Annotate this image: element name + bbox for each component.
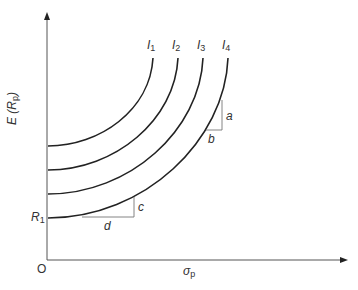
origin-label: O	[37, 263, 46, 275]
x-axis-label: σp	[183, 265, 195, 279]
indifference-curve-3	[48, 58, 203, 194]
slope-label-a: a	[226, 110, 233, 122]
indifference-curve-1	[48, 58, 153, 146]
slope-label-b: b	[208, 133, 215, 145]
slope-label-d: d	[104, 220, 111, 232]
y-axis-arrow-icon	[44, 12, 50, 20]
curve-label-i1: I1	[147, 39, 155, 53]
indifference-curve-4	[48, 58, 228, 218]
curve-label-i3: I3	[197, 39, 205, 53]
curve-label-i4: I4	[222, 39, 230, 53]
slope-label-c: c	[138, 201, 144, 213]
curve-label-i2: I2	[172, 39, 180, 53]
indifference-curve-2	[48, 58, 178, 170]
r1-label: R1	[31, 211, 45, 225]
x-axis-arrow-icon	[340, 257, 348, 263]
y-axis-label: E (Rp)	[6, 92, 20, 125]
